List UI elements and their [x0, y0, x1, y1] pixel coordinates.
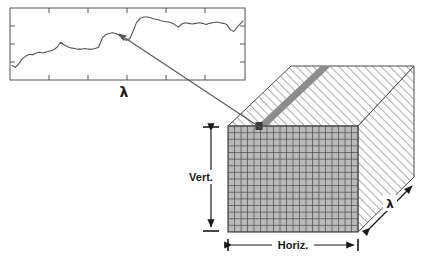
- horizontal-dimension-label: Horiz.: [278, 239, 309, 251]
- cube-front-grid: [228, 126, 358, 232]
- horizontal-dimension: Horiz.: [228, 238, 358, 252]
- selected-pixel-marker[interactable]: [256, 122, 263, 130]
- vertical-dimension: Vert.: [184, 127, 219, 231]
- depth-dimension-label: λ: [386, 197, 394, 211]
- vertical-dimension-label: Vert.: [189, 171, 213, 183]
- figure-canvas: λ: [0, 0, 435, 263]
- spectrum-plot: λ: [10, 8, 245, 100]
- spectrum-plot-frame: [10, 8, 245, 80]
- hyperspectral-cube-figure: λ: [0, 0, 435, 263]
- spectrum-axis-label: λ: [120, 84, 129, 100]
